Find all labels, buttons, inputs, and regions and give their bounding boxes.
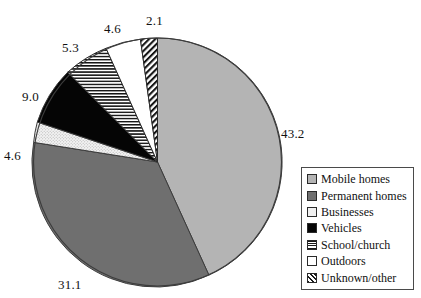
legend-swatch-school-church-icon xyxy=(307,240,317,250)
legend-swatch-vehicles-icon xyxy=(307,223,317,233)
legend-label-unknown-other: Unknown/other xyxy=(321,272,396,284)
legend-label-outdoors: Outdoors xyxy=(321,255,366,267)
slice-label-vehicles: 9.0 xyxy=(22,89,39,105)
legend-label-vehicles: Vehicles xyxy=(321,222,362,234)
legend-item-businesses[interactable]: Businesses xyxy=(307,204,409,220)
chart-legend: Mobile homes Permanent homes Businesses … xyxy=(301,167,414,290)
legend-label-businesses: Businesses xyxy=(321,206,374,218)
slice-label-businesses: 4.6 xyxy=(4,148,21,164)
legend-swatch-unknown-other-icon xyxy=(307,273,317,283)
slice-label-mobile-homes: 43.2 xyxy=(281,126,305,142)
legend-label-school-church: School/church xyxy=(321,239,390,251)
pie-chart-figure: 43.2 31.1 4.6 9.0 5.3 4.6 2.1 Mobile hom… xyxy=(0,0,421,298)
legend-item-mobile-homes[interactable]: Mobile homes xyxy=(307,171,409,187)
legend-swatch-businesses-icon xyxy=(307,207,317,217)
legend-item-outdoors[interactable]: Outdoors xyxy=(307,253,409,269)
legend-label-permanent-homes: Permanent homes xyxy=(321,190,407,202)
legend-item-vehicles[interactable]: Vehicles xyxy=(307,220,409,236)
slice-label-permanent-homes: 31.1 xyxy=(58,277,82,293)
legend-swatch-permanent-homes-icon xyxy=(307,191,317,201)
slice-label-school-church: 5.3 xyxy=(62,40,79,56)
legend-item-permanent-homes[interactable]: Permanent homes xyxy=(307,187,409,203)
legend-item-school-church[interactable]: School/church xyxy=(307,237,409,253)
slice-label-outdoors: 4.6 xyxy=(104,21,121,37)
legend-label-mobile-homes: Mobile homes xyxy=(321,173,390,185)
legend-item-unknown-other[interactable]: Unknown/other xyxy=(307,269,409,285)
slice-label-unknown-other: 2.1 xyxy=(146,13,163,29)
legend-swatch-mobile-homes-icon xyxy=(307,174,317,184)
legend-swatch-outdoors-icon xyxy=(307,256,317,266)
